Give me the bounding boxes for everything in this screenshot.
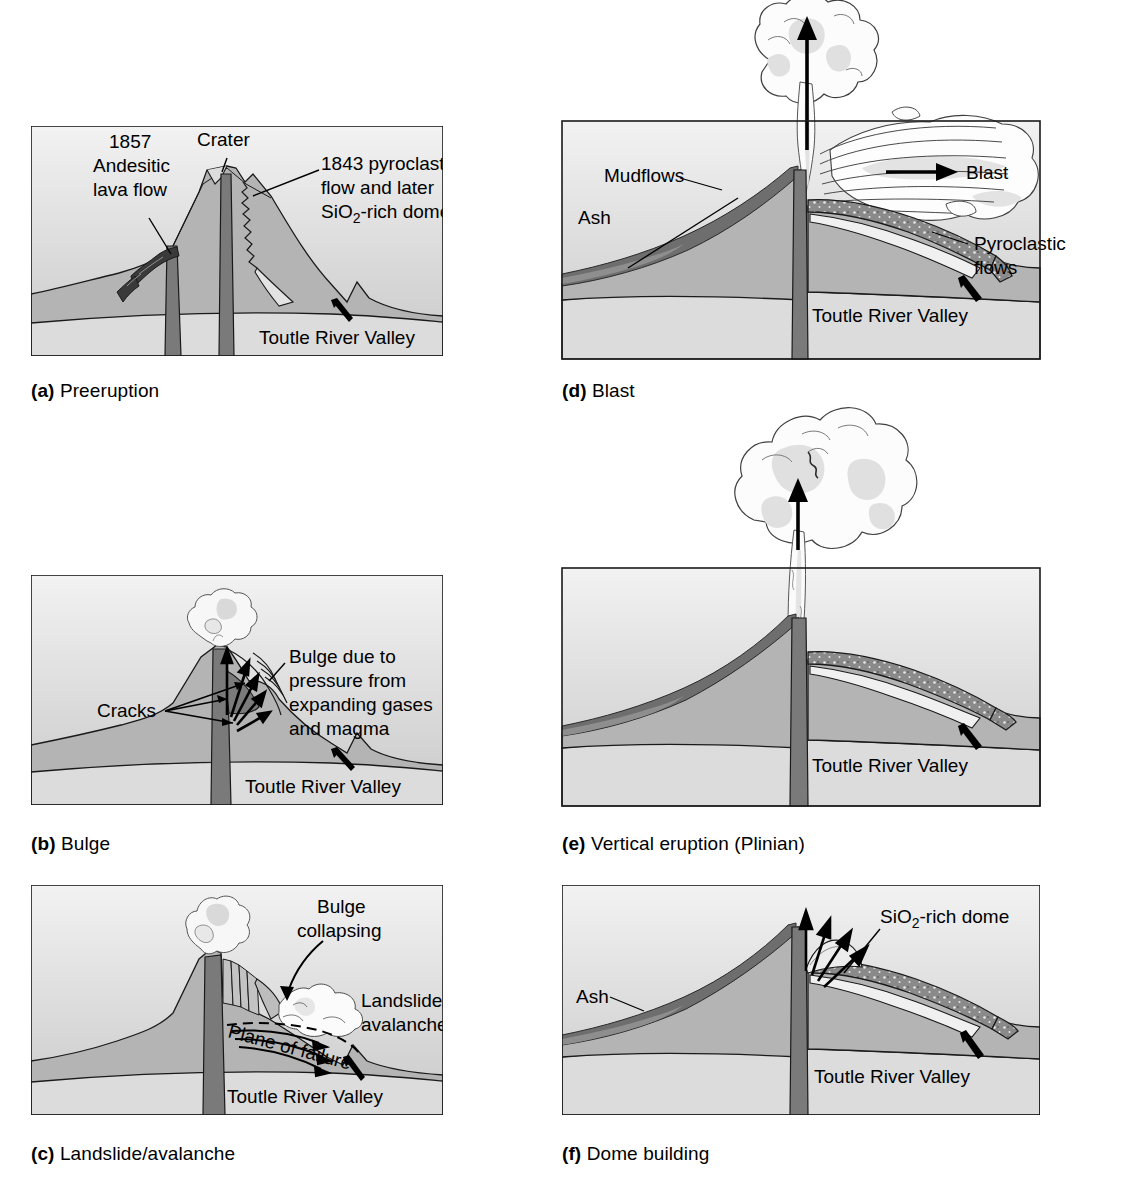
label-sio2-rest-f: -rich dome: [919, 906, 1009, 927]
central-conduit: [790, 618, 808, 806]
steam-cloud-lobe: [205, 619, 221, 634]
caption-text-f: Dome building: [587, 1143, 710, 1164]
caption-panel-b: (b) Bulge: [31, 833, 110, 855]
label-1843-line1: 1843 pyroclastic: [321, 153, 458, 174]
panel-a-diagram: 1857 Andesitic lava flow Crater 1843 pyr…: [31, 126, 443, 356]
label-pyroclastic-line2: flows: [974, 257, 1017, 278]
panel-b-diagram: Cracks Bulge due to pressure from expand…: [31, 575, 443, 805]
caption-letter-b: (b): [31, 833, 56, 854]
panel-b-bulge: Cracks Bulge due to pressure from expand…: [31, 575, 443, 805]
label-toutle-valley-d: Toutle River Valley: [812, 305, 968, 326]
panel-c-diagram: Bulge collapsing Landslide/ avalanche Pl…: [31, 885, 443, 1115]
caption-letter-a: (a): [31, 380, 55, 401]
caption-letter-d: (d): [562, 380, 587, 401]
caption-text-c: Landslide/avalanche: [60, 1143, 235, 1164]
label-bulge-line3: expanding gases: [289, 694, 433, 715]
blast-puff-1: [892, 107, 920, 120]
panel-f-diagram: Ash SiO2-rich dome Toutle River Valley: [562, 885, 1040, 1115]
label-cracks: Cracks: [97, 700, 156, 721]
caption-text-a: Preeruption: [60, 380, 159, 401]
panel-f-dome-building: Ash SiO2-rich dome Toutle River Valley: [562, 885, 1040, 1115]
label-bulge-c-line1: Bulge: [317, 896, 366, 917]
caption-text-e: Vertical eruption (Plinian): [591, 833, 805, 854]
label-ash: Ash: [578, 207, 611, 228]
label-toutle-valley-f: Toutle River Valley: [814, 1066, 970, 1087]
label-sio2-a: SiO: [321, 201, 353, 222]
label-bulge-line2: pressure from: [289, 670, 406, 691]
label-landslide-line1: Landslide/: [361, 990, 448, 1011]
label-toutle-valley-c: Toutle River Valley: [227, 1086, 383, 1107]
label-sio2-rest-a: -rich dome: [360, 201, 450, 222]
caption-panel-e: (e) Vertical eruption (Plinian): [562, 833, 805, 855]
panel-d-blast: Blast Mudflows Ash: [562, 0, 1040, 359]
label-blast: Blast: [966, 162, 1009, 183]
label-toutle-valley-b: Toutle River Valley: [245, 776, 401, 797]
label-bulge-line4: and magma: [289, 718, 390, 739]
label-mudflows: Mudflows: [604, 165, 684, 186]
caption-text-b: Bulge: [61, 833, 110, 854]
panel-d-diagram: Blast Mudflows Ash: [562, 0, 1040, 359]
panel-e-vertical-eruption: Toutle River Valley: [562, 400, 1040, 806]
central-conduit: [219, 174, 234, 356]
caption-panel-d: (d) Blast: [562, 380, 635, 402]
caption-panel-f: (f) Dome building: [562, 1143, 709, 1165]
label-1857-line3: lava flow: [93, 179, 167, 200]
label-pyroclastic-line1: Pyroclastic: [974, 233, 1066, 254]
central-conduit: [792, 170, 808, 359]
eruption-sequence-figure: 1857 Andesitic lava flow Crater 1843 pyr…: [0, 0, 1125, 1193]
label-sio2-sub-f: 2: [912, 915, 920, 931]
panel-e-diagram: Toutle River Valley: [562, 400, 1040, 806]
central-conduit: [203, 955, 225, 1115]
label-toutle-valley-a: Toutle River Valley: [259, 327, 415, 348]
label-sio2-sub-a: 2: [353, 210, 361, 226]
caption-text-d: Blast: [592, 380, 635, 401]
caption-letter-e: (e): [562, 833, 586, 854]
panel-a-preeruption: 1857 Andesitic lava flow Crater 1843 pyr…: [31, 126, 443, 356]
caption-letter-f: (f): [562, 1143, 581, 1164]
label-toutle-valley-e: Toutle River Valley: [812, 755, 968, 776]
label-1843-line2: flow and later: [321, 177, 435, 198]
label-bulge-c-line2: collapsing: [297, 920, 382, 941]
plume-outline: [755, 0, 878, 103]
label-ash-f: Ash: [576, 986, 609, 1007]
label-bulge-line1: Bulge due to: [289, 646, 396, 667]
label-crater: Crater: [197, 129, 250, 150]
caption-panel-a: (a) Preeruption: [31, 380, 159, 402]
label-1857-line1: 1857: [109, 131, 151, 152]
label-sio2-f: SiO: [880, 906, 912, 927]
label-landslide-line2: avalanche: [361, 1014, 448, 1035]
caption-panel-c: (c) Landslide/avalanche: [31, 1143, 235, 1165]
label-1857-line2: Andesitic: [93, 155, 170, 176]
panel-c-landslide: Bulge collapsing Landslide/ avalanche Pl…: [31, 885, 443, 1115]
caption-letter-c: (c): [31, 1143, 55, 1164]
